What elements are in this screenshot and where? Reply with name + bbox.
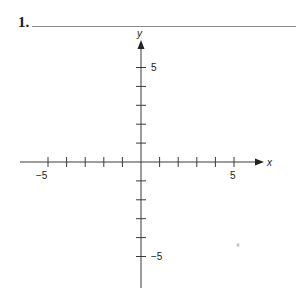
y-axis-arrow-icon [138, 40, 145, 49]
y-axis-label: y [136, 28, 143, 39]
x-axis-arrow-icon [255, 159, 264, 166]
scan-artifact [237, 243, 240, 247]
x-axis-label: x [266, 157, 273, 168]
x-tick-label-5: 5 [230, 170, 236, 181]
y-tick-label-neg5: −5 [151, 251, 163, 262]
x-tick-label-neg5: −5 [36, 170, 48, 181]
coordinate-plane[interactable]: y x −5 5 5 −5 [0, 0, 296, 305]
y-tick-label-5: 5 [151, 62, 157, 73]
